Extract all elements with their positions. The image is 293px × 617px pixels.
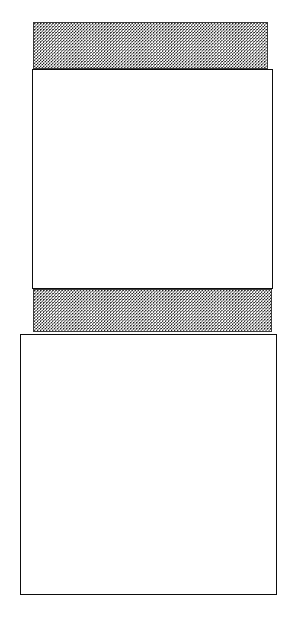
block-slab-upper	[32, 69, 273, 289]
figure-canvas	[0, 0, 293, 617]
block-band-top	[33, 22, 268, 69]
block-band-middle	[33, 289, 272, 332]
block-slab-lower	[20, 334, 277, 595]
